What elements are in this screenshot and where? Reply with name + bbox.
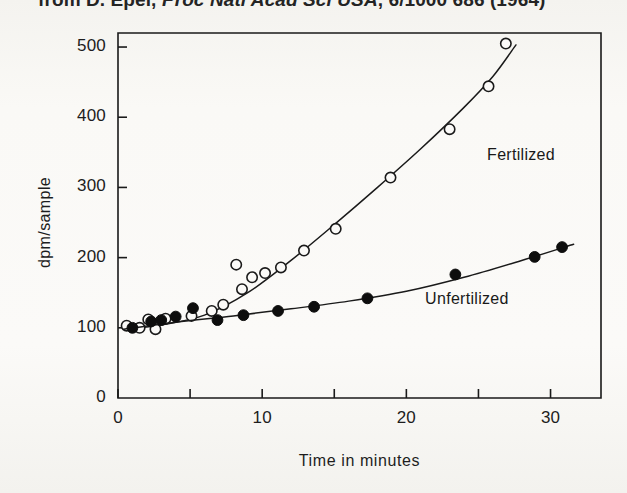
data-point-marker <box>276 262 286 272</box>
data-point-marker <box>146 316 157 327</box>
data-point-marker <box>331 224 341 234</box>
data-point-marker <box>237 284 247 294</box>
data-point-marker <box>212 315 223 326</box>
data-point-marker <box>529 252 540 263</box>
y-axis-tick-label: 0 <box>40 387 106 407</box>
plot-frame <box>118 33 601 398</box>
series-label-unfertilized: Unfertilized <box>425 290 509 308</box>
x-axis-tick-label: 10 <box>232 408 292 428</box>
data-point-marker <box>309 301 320 312</box>
data-point-marker <box>231 259 241 269</box>
data-point-marker <box>273 306 284 317</box>
data-point-marker <box>218 299 228 309</box>
data-point-marker <box>362 293 373 304</box>
data-point-marker <box>156 315 167 326</box>
data-point-marker <box>444 124 454 134</box>
series-curve <box>124 45 516 329</box>
y-axis-tick-label: 500 <box>40 36 106 56</box>
y-axis-tick-label: 400 <box>40 106 106 126</box>
data-point-marker <box>385 172 395 182</box>
x-axis-tick-label: 30 <box>521 408 581 428</box>
data-point-marker <box>170 311 181 322</box>
data-point-marker <box>557 242 568 253</box>
x-axis-title: Time in minutes <box>78 452 627 470</box>
x-axis-tick-label: 20 <box>376 408 436 428</box>
data-point-marker <box>188 303 199 314</box>
y-axis-title: dpm/sample <box>36 176 54 267</box>
data-point-marker <box>299 245 309 255</box>
data-point-marker <box>483 81 493 91</box>
data-point-marker <box>247 272 257 282</box>
figure-root: from D. Epel, Proc Natl Acad Sci USA, 6/… <box>0 0 627 493</box>
x-axis-tick-label: 0 <box>88 408 148 428</box>
series-label-fertilized: Fertilized <box>487 146 555 164</box>
y-axis-tick-label: 100 <box>40 317 106 337</box>
data-point-marker <box>501 38 511 48</box>
chart-plot-area: 01002003004005000102030FertilizedUnferti… <box>0 0 627 493</box>
data-point-marker <box>260 268 270 278</box>
data-point-marker <box>127 322 138 333</box>
data-point-marker <box>450 269 461 280</box>
data-point-marker <box>238 310 249 321</box>
